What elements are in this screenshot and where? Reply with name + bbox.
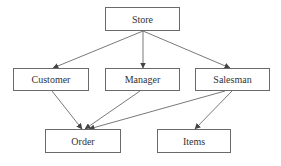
- diagram-canvas: Store Customer Manager Salesman Order It…: [0, 0, 281, 166]
- edge-store-to-customer: [53, 31, 143, 68]
- edge-salesman-to-items: [195, 91, 232, 129]
- edge-store-to-salesman: [143, 31, 230, 68]
- node-store: Store: [105, 7, 180, 31]
- node-salesman: Salesman: [195, 68, 270, 91]
- node-items: Items: [157, 129, 231, 153]
- node-label-order: Order: [71, 136, 94, 147]
- edge-salesman-to-order: [89, 91, 225, 129]
- node-customer: Customer: [13, 68, 89, 91]
- node-label-items: Items: [183, 136, 205, 147]
- node-order: Order: [45, 129, 121, 153]
- node-label-manager: Manager: [125, 74, 161, 85]
- node-label-salesman: Salesman: [213, 74, 251, 85]
- edge-customer-to-order: [52, 91, 82, 129]
- node-label-customer: Customer: [32, 74, 71, 85]
- node-label-store: Store: [132, 14, 153, 25]
- edge-manager-to-order: [85, 91, 140, 129]
- node-manager: Manager: [105, 68, 180, 91]
